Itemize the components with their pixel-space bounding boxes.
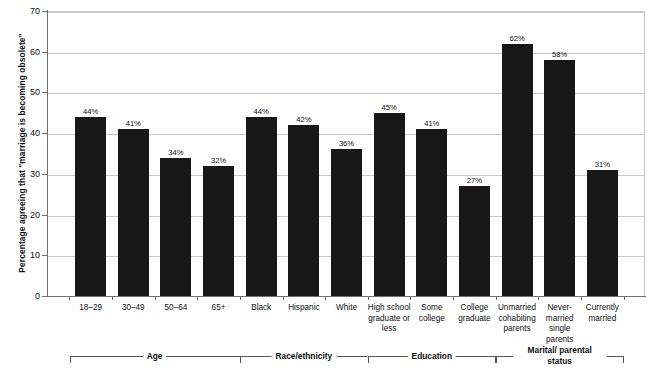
x-axis-tick [283,296,284,300]
y-axis-tick-label: 20 [10,210,40,220]
x-axis-tick [496,296,497,300]
bar [75,117,106,296]
plot-area: 44%41%34%32%44%42%36%45%41%27%62%58%31% [48,11,645,296]
x-axis-label: Hispanic [281,303,327,314]
x-axis-label: 18–29 [68,303,114,314]
bar-value-label: 44% [71,107,111,116]
x-axis-label: 65+ [196,303,242,314]
bracket-cap [623,356,624,363]
bar-value-label: 41% [113,119,153,128]
x-axis-label: Black [238,303,284,314]
bar-value-label: 27% [454,176,494,185]
x-axis-tick [112,296,113,300]
y-axis-tick-label: 10 [10,250,40,260]
group-bracket-label: Marital/ parental status [513,345,607,367]
bar-value-label: 45% [369,103,409,112]
bar [288,125,319,296]
x-axis-label: Never-married single parents [537,303,583,345]
x-axis-label: 50–64 [153,303,199,314]
x-axis-tick [410,296,411,300]
x-axis-line [47,296,646,297]
x-axis-tick [240,296,241,300]
bar [416,129,447,296]
x-axis-label: Some college [409,303,455,324]
bar [502,44,533,296]
bar-chart: Percentage agreeing that "marriage is be… [0,0,652,382]
x-axis-tick [155,296,156,300]
x-axis-label: High school graduate or less [366,303,412,335]
bar [587,170,618,296]
bar [374,113,405,296]
bar-value-label: 42% [284,115,324,124]
x-axis-tick [69,296,70,300]
y-axis-tick-label: 60 [10,47,40,57]
bar-value-label: 31% [582,160,622,169]
x-axis-tick [453,296,454,300]
x-axis-tick [581,296,582,300]
bar-value-label: 34% [156,148,196,157]
y-axis-tick-label: 50 [10,87,40,97]
y-axis-tick-label: 40 [10,128,40,138]
gridline [48,12,645,13]
bar-value-label: 41% [412,119,452,128]
bar [331,149,362,296]
bar-value-label: 36% [327,139,367,148]
bar-value-label: 62% [497,34,537,43]
bracket-cap [368,356,369,363]
x-axis-label: 30–49 [110,303,156,314]
x-axis-label: Currently married [579,303,625,324]
x-axis-label: College graduate [451,303,497,324]
bracket-cap [70,356,71,363]
bracket-cap [240,356,241,363]
bar [203,166,234,296]
bar [246,117,277,296]
bar [459,186,490,296]
bar [118,129,149,296]
x-axis-tick [197,296,198,300]
x-axis-label: White [324,303,370,314]
y-axis-tick-label: 0 [10,291,40,301]
x-axis-tick [538,296,539,300]
group-bracket-label: Education [408,351,456,362]
x-axis-tick [624,296,625,300]
bracket-cap [496,356,497,363]
group-bracket-label: Race/ethnicity [271,351,336,362]
x-axis-tick [325,296,326,300]
x-axis-label: Unmarried cohabiting parents [494,303,540,335]
bar [160,158,191,296]
bar-value-label: 32% [199,156,239,165]
bar [544,60,575,296]
y-axis-tick-label: 30 [10,169,40,179]
x-axis-tick [368,296,369,300]
group-bracket-label: Age [143,351,167,362]
y-axis-tick-label: 70 [10,6,40,16]
bar-value-label: 44% [241,107,281,116]
bar-value-label: 58% [540,50,580,59]
